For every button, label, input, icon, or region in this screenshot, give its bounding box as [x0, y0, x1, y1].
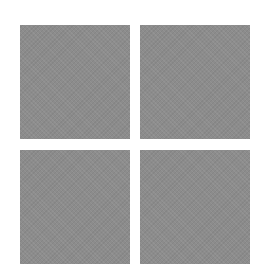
- logo-tile-top-left: [20, 25, 130, 139]
- windows-logo-icon: [20, 25, 252, 264]
- logo-tile-top-right: [140, 25, 250, 139]
- logo-tile-bottom-right: [140, 150, 250, 264]
- image-canvas: [0, 0, 268, 279]
- logo-tile-bottom-left: [20, 150, 130, 264]
